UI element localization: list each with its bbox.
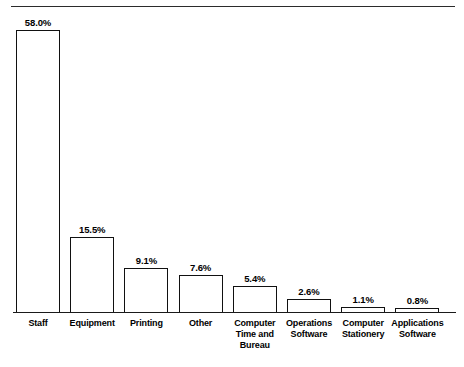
bar-rect	[124, 268, 168, 312]
bar-rect	[287, 299, 331, 312]
bar-rect	[395, 308, 439, 312]
bar-group: 1.1%	[341, 0, 385, 312]
bar-rect	[341, 307, 385, 312]
category-label: ApplicationsSoftware	[381, 318, 453, 340]
bar-group: 2.6%	[287, 0, 331, 312]
bar-value-label: 0.8%	[407, 296, 428, 306]
bar-rect	[179, 275, 223, 312]
bar-rect	[233, 286, 277, 312]
bar-group: 15.5%	[70, 0, 114, 312]
bar-group: 5.4%	[233, 0, 277, 312]
bar-group: 7.6%	[179, 0, 223, 312]
bar-value-label: 1.1%	[353, 295, 374, 305]
bar-value-label: 9.1%	[136, 256, 157, 266]
bar-group: 0.8%	[395, 0, 439, 312]
bar-value-label: 7.6%	[190, 263, 211, 273]
bar-value-label: 5.4%	[244, 274, 265, 284]
bar-rect	[16, 30, 60, 312]
bar-rect	[70, 237, 114, 312]
category-label-line: Bureau	[219, 340, 291, 351]
category-label-line: Applications	[381, 318, 453, 329]
bar-group: 9.1%	[124, 0, 168, 312]
bar-group: 58.0%	[16, 0, 60, 312]
bar-value-label: 2.6%	[298, 287, 319, 297]
bar-value-label: 15.5%	[79, 225, 105, 235]
bar-value-label: 58.0%	[25, 18, 51, 28]
category-label-line: Software	[381, 329, 453, 340]
bar-chart: 58.0%15.5%9.1%7.6%5.4%2.6%1.1%0.8% Staff…	[0, 0, 464, 367]
